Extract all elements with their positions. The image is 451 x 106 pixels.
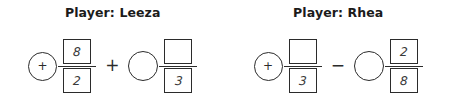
denominator-cell[interactable]: 3 [289, 68, 317, 93]
numerator-cell[interactable] [164, 39, 192, 64]
plus-sign-icon: + [263, 60, 273, 72]
expression-leeza: + 8 2 + 3 [0, 34, 226, 98]
fraction-game-board: Player: Leeza + 8 2 + [0, 0, 451, 106]
page-title: Player: Rhea [293, 5, 383, 20]
second-fraction: 2 8 [385, 39, 423, 93]
numerator-value: 2 [400, 46, 408, 58]
second-fraction: 3 [159, 39, 197, 93]
lead-sign-circle[interactable]: + [28, 52, 57, 81]
lead-sign-circle[interactable]: + [254, 52, 283, 81]
first-fraction: 8 2 [58, 39, 96, 93]
numerator-cell[interactable]: 2 [390, 39, 418, 64]
fraction-bar [159, 66, 197, 67]
plus-sign-icon: + [38, 60, 48, 72]
fraction-bar [58, 66, 96, 67]
numerator-cell[interactable]: 8 [63, 39, 91, 64]
page-title: Player: Leeza [65, 5, 161, 20]
denominator-value: 2 [73, 75, 81, 87]
denominator-cell[interactable]: 3 [164, 68, 192, 93]
expression-rhea: + 3 − 2 8 [226, 34, 451, 98]
fraction-bar [385, 66, 423, 67]
player-panel-rhea: Player: Rhea + 3 − 2 [226, 0, 451, 106]
denominator-cell[interactable]: 2 [63, 68, 91, 93]
second-sign-circle[interactable] [354, 51, 384, 81]
player-panel-leeza: Player: Leeza + 8 2 + [0, 0, 226, 106]
numerator-value: 8 [73, 46, 81, 58]
denominator-value: 8 [400, 75, 408, 87]
first-fraction: 3 [284, 39, 322, 93]
fraction-bar [284, 66, 322, 67]
denominator-value: 3 [298, 75, 306, 87]
numerator-cell[interactable] [289, 39, 317, 64]
second-sign-circle[interactable] [128, 51, 158, 81]
denominator-value: 3 [174, 75, 182, 87]
denominator-cell[interactable]: 8 [390, 68, 418, 93]
minus-operator-icon: − [331, 57, 345, 74]
plus-operator-icon: + [105, 57, 119, 74]
